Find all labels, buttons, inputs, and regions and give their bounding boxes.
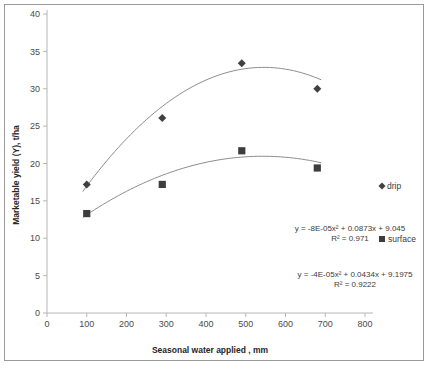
data-point-drip xyxy=(238,59,246,67)
trendline-surface xyxy=(83,156,322,217)
x-tick-label: 0 xyxy=(44,319,49,329)
annotation-equation-drip: y = -8E-05x² + 0.0873x + 9.045 xyxy=(295,224,406,233)
data-points-drip xyxy=(83,59,322,188)
data-point-surface xyxy=(314,164,321,171)
y-tick-label: 0 xyxy=(35,308,40,318)
legend-square-icon xyxy=(379,236,385,242)
legend-item-drip[interactable]: drip xyxy=(379,181,402,191)
legend: drip surface xyxy=(379,181,417,244)
trendline-drip xyxy=(83,67,322,191)
legend-label-surface: surface xyxy=(388,234,416,244)
x-axis-ticks: 0100200300400500600700800 xyxy=(44,313,372,329)
data-point-surface xyxy=(159,181,166,188)
x-tick-label: 300 xyxy=(159,319,174,329)
y-tick-label: 15 xyxy=(30,196,40,206)
legend-label-drip: drip xyxy=(387,181,401,191)
x-tick-label: 100 xyxy=(79,319,94,329)
y-tick-label: 30 xyxy=(30,84,40,94)
annotation-equation-surface: y = -4E-05x² + 0.0434x + 9.1975 xyxy=(298,270,414,279)
y-axis-title: Marketable yield (Y), t/ha xyxy=(11,125,21,225)
y-tick-label: 10 xyxy=(30,233,40,243)
chart-figure: 0510152025303540 01002003004005006007008… xyxy=(4,4,424,361)
legend-item-surface[interactable]: surface xyxy=(379,234,416,244)
x-tick-label: 500 xyxy=(238,319,253,329)
y-tick-label: 20 xyxy=(30,159,40,169)
x-tick-label: 700 xyxy=(318,319,333,329)
data-point-drip xyxy=(313,85,321,93)
x-tick-label: 200 xyxy=(119,319,134,329)
legend-diamond-icon xyxy=(379,183,386,190)
y-tick-label: 25 xyxy=(30,121,40,131)
data-point-surface xyxy=(238,147,245,154)
x-tick-label: 800 xyxy=(357,319,372,329)
x-axis-title: Seasonal water applied , mm xyxy=(152,345,269,355)
plot-area: 0510152025303540 01002003004005006007008… xyxy=(5,5,425,362)
y-tick-label: 5 xyxy=(35,271,40,281)
data-point-drip xyxy=(158,114,166,122)
chart-svg: 0510152025303540 01002003004005006007008… xyxy=(5,5,425,362)
x-tick-label: 400 xyxy=(198,319,213,329)
y-tick-label: 40 xyxy=(30,9,40,19)
y-axis-ticks: 0510152025303540 xyxy=(30,9,47,318)
data-point-surface xyxy=(83,210,90,217)
annotation-r2-drip: R² = 0.971 xyxy=(331,234,369,243)
y-tick-label: 35 xyxy=(30,47,40,57)
annotation-r2-surface: R² = 0.9222 xyxy=(334,280,377,289)
x-tick-label: 600 xyxy=(278,319,293,329)
